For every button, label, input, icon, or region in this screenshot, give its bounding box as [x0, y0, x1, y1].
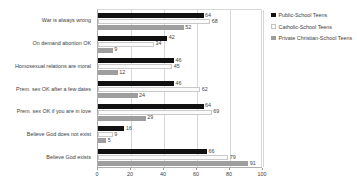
- bar-row[interactable]: 52: [98, 25, 261, 30]
- bar[interactable]: [98, 70, 118, 75]
- legend-item[interactable]: Private Christian-School Teens: [271, 35, 352, 41]
- bar-value-label: 16: [126, 126, 132, 131]
- bar[interactable]: [98, 87, 200, 92]
- bar[interactable]: [98, 25, 184, 30]
- plot-area: 646852423494645124662246469291695667991: [97, 9, 262, 168]
- bar[interactable]: [98, 13, 204, 18]
- x-axis-tick: [229, 168, 230, 170]
- category-label: On demand abortion OK: [33, 40, 91, 46]
- bar-row[interactable]: 64: [98, 104, 261, 109]
- bar-row[interactable]: 91: [98, 161, 261, 166]
- x-axis-tick: [163, 168, 164, 170]
- category-label: Prem. sex OK after a few dates: [16, 86, 91, 92]
- bar-value-label: 5: [108, 138, 111, 143]
- category-label: War is always wrong: [42, 17, 91, 23]
- x-axis: 020406080100: [97, 168, 262, 182]
- bar-value-label: 24: [139, 93, 145, 98]
- bar-group: 646929: [98, 101, 261, 124]
- x-axis-tick: [196, 168, 197, 170]
- bar-value-label: 64: [205, 13, 211, 18]
- bar-group: 667991: [98, 146, 261, 169]
- legend-swatch-icon: [271, 24, 276, 29]
- bar[interactable]: [98, 42, 154, 47]
- bar-value-label: 68: [212, 19, 218, 24]
- bar-row[interactable]: 9: [98, 132, 261, 137]
- bar-value-label: 9: [114, 47, 117, 52]
- bar-group: 42349: [98, 33, 261, 56]
- bar-row[interactable]: 46: [98, 81, 261, 86]
- legend-label: Private Christian-School Teens: [279, 35, 353, 41]
- bar[interactable]: [98, 81, 174, 86]
- bar[interactable]: [98, 161, 248, 166]
- legend-item[interactable]: Public-School Teens: [271, 12, 352, 18]
- gridline: [263, 10, 264, 167]
- bar-value-label: 12: [119, 70, 125, 75]
- bar-row[interactable]: 16: [98, 126, 261, 131]
- bar[interactable]: [98, 126, 124, 131]
- bar-group: 1695: [98, 124, 261, 147]
- bar-value-label: 79: [230, 155, 236, 160]
- x-axis-tick: [262, 168, 263, 170]
- bar[interactable]: [98, 93, 138, 98]
- legend-item[interactable]: Catholic-School Teens: [271, 24, 352, 30]
- x-axis-tick-label: 60: [193, 171, 199, 177]
- bar-value-label: 62: [202, 87, 208, 92]
- bar-value-label: 46: [175, 81, 181, 86]
- bar-row[interactable]: 79: [98, 155, 261, 160]
- legend-label: Public-School Teens: [279, 12, 328, 18]
- bar[interactable]: [98, 110, 212, 115]
- x-axis-tick-label: 80: [226, 171, 232, 177]
- x-axis-tick-label: 100: [258, 171, 267, 177]
- bar[interactable]: [98, 155, 228, 160]
- bar[interactable]: [98, 48, 113, 53]
- bar-value-label: 42: [169, 35, 175, 40]
- bar-row[interactable]: 29: [98, 116, 261, 121]
- bar-value-label: 29: [147, 115, 153, 120]
- bar-value-label: 34: [156, 41, 162, 46]
- bar[interactable]: [98, 19, 210, 24]
- category-label: Believe God does not exist: [27, 131, 91, 137]
- legend-label: Catholic-School Teens: [279, 24, 333, 30]
- bar-row[interactable]: 66: [98, 149, 261, 154]
- bar-row[interactable]: 42: [98, 36, 261, 41]
- bar[interactable]: [98, 58, 174, 63]
- bar-row[interactable]: 64: [98, 13, 261, 18]
- bar-row[interactable]: 62: [98, 87, 261, 92]
- bar[interactable]: [98, 116, 146, 121]
- bar-value-label: 45: [174, 64, 180, 69]
- category-axis-labels: War is always wrongOn demand abortion OK…: [0, 9, 94, 168]
- bar-row[interactable]: 69: [98, 110, 261, 115]
- bar-value-label: 52: [185, 25, 191, 30]
- bar-row[interactable]: 68: [98, 19, 261, 24]
- chart-legend: Public-School TeensCatholic-School Teens…: [271, 12, 352, 41]
- bar-value-label: 64: [205, 103, 211, 108]
- category-label: Believe God exists: [46, 154, 91, 160]
- x-axis-tick-label: 40: [160, 171, 166, 177]
- x-axis-tick: [130, 168, 131, 170]
- bar-value-label: 69: [213, 109, 219, 114]
- bar[interactable]: [98, 64, 172, 69]
- bar[interactable]: [98, 149, 207, 154]
- bar-row[interactable]: 34: [98, 42, 261, 47]
- legend-swatch-icon: [271, 36, 276, 41]
- bar-chart: 646852423494645124662246469291695667991 …: [0, 0, 357, 195]
- bar-rows: 646852423494645124662246469291695667991: [98, 10, 261, 167]
- bar-value-label: 9: [114, 132, 117, 137]
- bar-group: 646852: [98, 10, 261, 33]
- bar-group: 466224: [98, 78, 261, 101]
- bar-row[interactable]: 12: [98, 70, 261, 75]
- category-label: Homosexual relations are moral: [15, 63, 91, 69]
- category-label: Prem. sex OK if you are in love: [17, 108, 91, 114]
- bar-row[interactable]: 9: [98, 48, 261, 53]
- bar-value-label: 66: [208, 149, 214, 154]
- bar-value-label: 91: [250, 161, 256, 166]
- x-axis-tick-label: 20: [127, 171, 133, 177]
- legend-swatch-icon: [271, 13, 276, 18]
- bar[interactable]: [98, 138, 106, 143]
- bar-group: 464512: [98, 55, 261, 78]
- bar-row[interactable]: 5: [98, 138, 261, 143]
- bar-row[interactable]: 24: [98, 93, 261, 98]
- x-axis-tick-label: 0: [96, 171, 99, 177]
- bar[interactable]: [98, 104, 204, 109]
- x-axis-tick: [97, 168, 98, 170]
